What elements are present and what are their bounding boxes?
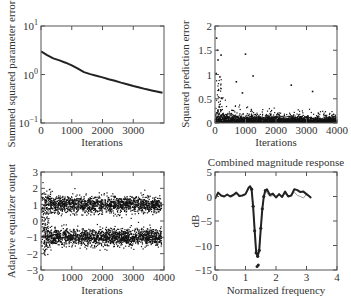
plot-area [41,182,162,256]
outlier-point [312,91,314,93]
plot-area [41,51,163,92]
outlier-point [220,54,222,56]
series-marker [256,255,259,258]
y-tick-label: 5 [207,166,213,178]
x-tick-label: 3 [304,271,310,283]
outlier-point [290,84,292,86]
y-tick-label: 3 [33,166,39,178]
series-marker [264,189,267,192]
title-magnitude-response: Combined magnitude response [208,156,344,168]
y-tick-label: −3 [26,264,38,276]
outlier-point [245,53,247,55]
series-marker [253,229,256,232]
series-marker [262,195,265,198]
plot-area [215,37,337,123]
outlier-marker [256,265,259,268]
axes-frame [41,172,164,270]
y-tick-label: 0 [207,117,213,129]
y-tick-label: 1 [33,199,39,211]
xlabel-parameter-error: Iterations [81,136,123,148]
x-tick-label: 1000 [61,271,84,283]
x-tick-label: 0 [38,271,44,283]
x-tick-label: 2000 [92,124,115,136]
series-marker [259,227,262,230]
x-tick-label: 1000 [235,124,258,136]
outlier-point [216,37,218,39]
x-tick-label: 2000 [92,271,115,283]
x-tick-label: 2000 [265,124,288,136]
x-tick-label: 1000 [61,124,84,136]
series-marker [261,207,264,210]
ylabel-prediction-error: Squared prediction error [179,20,191,128]
ylabel-equalizer-output: Adaptive equalizer output [5,164,17,278]
x-tick-label: 2 [273,271,279,283]
axes-frame [215,172,337,270]
outlier-point [219,76,221,78]
y-tick-label: 101 [23,18,38,32]
xlabel-magnitude-response: Normalized frequency [227,284,326,296]
series-marker [252,205,255,208]
x-tick-label: 3000 [296,124,319,136]
y-tick-label: 1 [207,69,213,81]
y-tick-label: 100 [23,67,38,81]
plot-area [215,186,311,268]
y-tick-label: 2 [33,182,39,194]
axes-frame [215,26,337,123]
x-tick-label: 0 [212,271,218,283]
outlier-point [217,59,219,61]
x-tick-label: 0 [212,124,218,136]
y-tick-label: 0.5 [198,93,212,105]
y-tick-label: −15 [195,264,213,276]
y-tick-label: 2 [207,20,213,32]
x-tick-label: 3000 [122,271,145,283]
series-line [41,51,163,92]
outlier-point [236,81,238,83]
y-tick-label: 0 [33,215,39,227]
xlabel-equalizer-output: Iterations [81,284,123,296]
y-tick-label: −5 [200,215,212,227]
y-tick-label: −10 [195,240,213,252]
outlier-point [242,92,244,94]
x-tick-label: 1 [243,271,249,283]
y-tick-label: −1 [26,231,38,243]
figure: Summed squared parameter error Iteration… [0,0,351,302]
y-tick-label: −2 [26,248,38,260]
subplot-parameter-error: Summed squared parameter error Iteration… [5,0,164,148]
subplot-magnitude-response: Combined magnitude response dB Normalize… [189,156,344,296]
subplot-prediction-error: Squared prediction error Iterations 0100… [179,20,349,148]
outlier-point [252,75,254,77]
y-tick-label: 1.5 [198,44,212,56]
ylabel-magnitude-response: dB [189,215,201,228]
x-tick-label: 4000 [153,271,176,283]
y-tick-label: 0 [207,191,213,203]
x-tick-label: 4000 [326,124,349,136]
xlabel-prediction-error: Iterations [255,136,297,148]
series-marker [255,251,258,254]
ylabel-parameter-error: Summed squared parameter error [5,0,17,147]
x-tick-label: 4 [334,271,340,283]
axes-frame [41,26,164,123]
y-tick-label: 10−1 [18,115,38,129]
series-marker [258,249,261,252]
subplot-equalizer-output: Adaptive equalizer output Iterations 010… [5,164,176,296]
x-tick-label: 0 [38,124,44,136]
series-marker [250,188,253,191]
x-tick-label: 3000 [122,124,145,136]
